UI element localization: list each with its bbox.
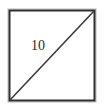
- figure-drawing: [0, 0, 104, 111]
- diagonal-length-label: 10: [31, 39, 45, 53]
- geometry-figure: 10: [0, 0, 104, 111]
